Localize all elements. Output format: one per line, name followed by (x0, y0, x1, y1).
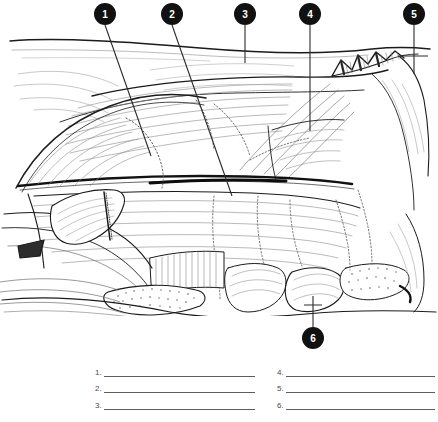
callout-4-label: 4 (307, 9, 313, 20)
answer-number-6: 6. (277, 401, 286, 410)
answer-column-right: 4. 5. 6. (277, 360, 435, 410)
muscle-belly-1-outline (16, 95, 206, 188)
callout-2-leader (172, 25, 232, 196)
answer-number-1: 1. (95, 368, 104, 377)
answer-row-5[interactable]: 5. (277, 377, 435, 394)
callout-5[interactable]: 5 (403, 3, 425, 25)
answer-column-left: 1. 2. 3. (95, 360, 255, 410)
cut-bone-surface (104, 285, 205, 315)
answer-number-5: 5. (277, 384, 286, 393)
answer-blanks: 1. 2. 3. 4. 5. 6. (0, 360, 438, 422)
answer-line-2[interactable] (104, 383, 255, 393)
callout-2-label: 2 (169, 9, 175, 20)
callout-2[interactable]: 2 (161, 3, 183, 25)
answer-line-1[interactable] (104, 367, 255, 377)
answer-line-6[interactable] (286, 400, 435, 410)
answer-number-3: 3. (95, 401, 104, 410)
anatomy-line-drawing: 123456 (0, 0, 438, 355)
callout-1-leader (105, 25, 151, 156)
callout-1[interactable]: 1 (94, 3, 116, 25)
answer-row-6[interactable]: 6. (277, 393, 435, 410)
answer-row-3[interactable]: 3. (95, 393, 255, 410)
answer-row-1[interactable]: 1. (95, 360, 255, 377)
callout-6-label: 6 (310, 333, 316, 344)
answer-line-3[interactable] (104, 400, 255, 410)
answer-line-4[interactable] (286, 367, 435, 377)
callout-1-label: 1 (102, 9, 108, 20)
ventral-contour (2, 298, 436, 318)
callout-3-label: 3 (242, 9, 248, 20)
topline-contour (10, 40, 430, 53)
scapula-caudal-border (400, 57, 429, 176)
answer-number-2: 2. (95, 384, 104, 393)
answer-row-4[interactable]: 4. (277, 360, 435, 377)
callout-6[interactable]: 6 (302, 327, 324, 349)
stippled-fat-patch (340, 264, 411, 302)
anatomy-figure: 123456 (0, 0, 438, 355)
callout-3[interactable]: 3 (234, 3, 256, 25)
answer-line-5[interactable] (286, 383, 435, 393)
anatomy-labeling-worksheet: 123456 1. 2. 3. 4. 5. (0, 0, 438, 422)
callout-4[interactable]: 4 (299, 3, 321, 25)
answer-number-4: 4. (277, 368, 286, 377)
answer-row-2[interactable]: 2. (95, 377, 255, 394)
callout-5-label: 5 (411, 9, 417, 20)
